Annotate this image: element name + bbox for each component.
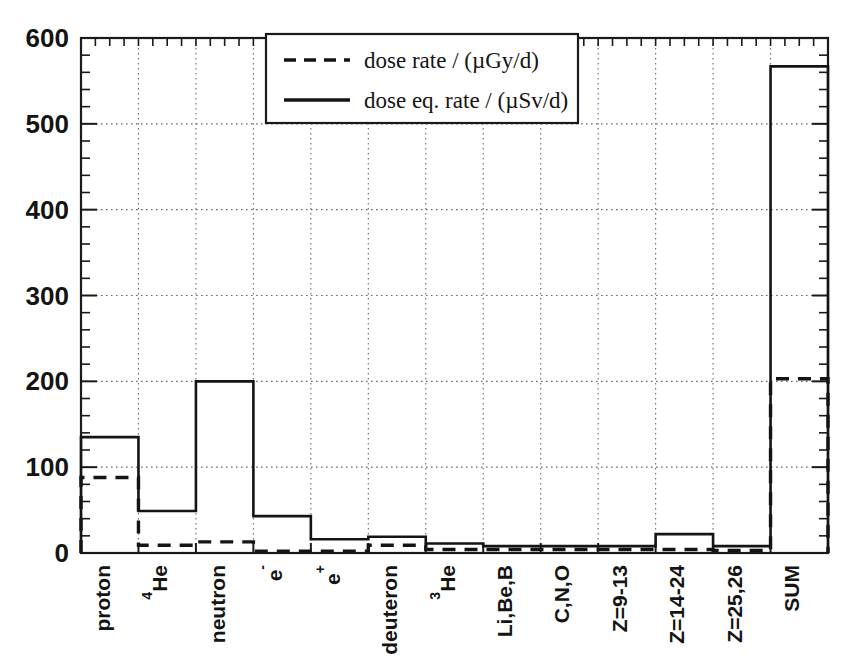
x-tick-label-deuteron: deuteron <box>378 565 401 655</box>
x-tick-label-z-14-24: Z=14-24 <box>665 565 688 644</box>
y-tick-label: 0 <box>55 538 69 568</box>
x-tick-label-neutron: neutron <box>206 565 229 643</box>
dose-rate-bar-chart: 0100200300400500600 proton4Heneutrone-e+… <box>0 0 846 664</box>
x-tick-label-proton: proton <box>91 565 114 631</box>
x-tick-label-z-25-26: Z=25,26 <box>723 565 746 643</box>
chart-legend: dose rate / (µGy/d)dose eq. rate / (µSv/… <box>266 34 578 123</box>
y-tick-label: 600 <box>26 23 69 53</box>
y-tick-label: 400 <box>26 195 69 225</box>
x-tick-label-c-n-o: C,N,O <box>550 565 573 623</box>
chart-figure: 0100200300400500600 proton4Heneutrone-e+… <box>0 0 846 664</box>
y-tick-label: 500 <box>26 109 69 139</box>
x-tick-label-sum: SUM <box>780 565 803 612</box>
x-tick-label-li-be-b: Li,Be,B <box>493 565 516 637</box>
y-tick-label: 300 <box>26 281 69 311</box>
y-tick-label: 200 <box>26 366 69 396</box>
legend-label-dose-eq-rate: dose eq. rate / (µSv/d) <box>364 88 568 113</box>
legend-label-dose-rate: dose rate / (µGy/d) <box>364 48 539 73</box>
y-tick-label: 100 <box>26 452 69 482</box>
x-tick-label-z-9-13: Z=9-13 <box>608 565 631 632</box>
